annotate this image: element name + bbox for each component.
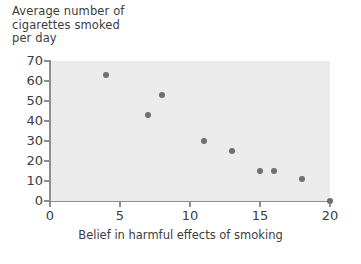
scatter-plot-figure: Average number of cigarettes smoked per …: [0, 0, 361, 264]
y-axis-tick-label: 40: [3, 114, 43, 127]
y-axis-tick-label: 70: [3, 54, 43, 67]
y-axis-tick: [44, 160, 50, 161]
x-axis-title: Belief in harmful effects of smoking: [0, 228, 361, 242]
data-point: [145, 112, 151, 118]
y-axis-tick-label: 10: [3, 174, 43, 187]
data-point: [327, 198, 333, 204]
plot-area: [50, 61, 330, 201]
x-axis-tick-label: 15: [240, 209, 280, 222]
x-axis-tick-label: 0: [30, 209, 70, 222]
x-axis-tick-label: 5: [100, 209, 140, 222]
x-axis-tick-label: 20: [310, 209, 350, 222]
y-axis-tick: [44, 100, 50, 101]
x-axis-tick: [119, 201, 120, 207]
data-point: [201, 138, 207, 144]
x-axis-tick-label: 10: [170, 209, 210, 222]
y-axis-tick: [44, 140, 50, 141]
y-axis-tick-label: 60: [3, 74, 43, 87]
data-point: [257, 168, 263, 174]
y-axis-tick-label: 0: [3, 194, 43, 207]
y-axis-tick: [44, 60, 50, 61]
y-axis-tick: [44, 180, 50, 181]
data-point: [159, 92, 165, 98]
data-point: [271, 168, 277, 174]
x-axis-tick: [49, 201, 50, 207]
data-point: [299, 176, 305, 182]
x-axis-tick: [189, 201, 190, 207]
data-point: [229, 148, 235, 154]
data-point: [103, 72, 109, 78]
y-axis-title: Average number of cigarettes smoked per …: [12, 5, 192, 46]
x-axis-tick: [259, 201, 260, 207]
y-axis-tick: [44, 80, 50, 81]
y-axis-tick: [44, 120, 50, 121]
y-axis-tick-label: 50: [3, 94, 43, 107]
y-axis-tick-label: 20: [3, 154, 43, 167]
y-axis-tick-label: 30: [3, 134, 43, 147]
